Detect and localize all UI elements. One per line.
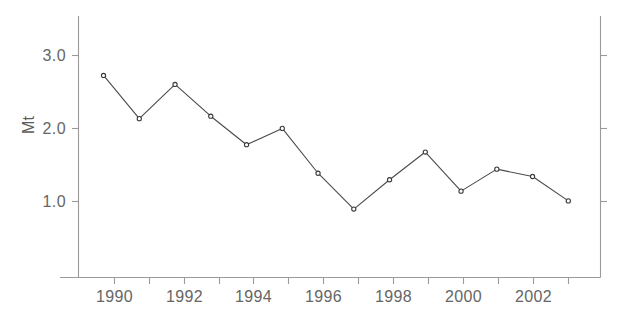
chart-canvas: 3.0 2.0 1.0 Mt 1990 1992 1994 1996 1998 … <box>0 0 621 321</box>
y-tick-marks-right <box>601 56 608 202</box>
data-point-1996 <box>316 171 320 175</box>
y-tick-label-2: 2.0 <box>43 120 66 137</box>
x-tick-label-2000: 2000 <box>445 288 482 305</box>
x-tick-label-2002: 2002 <box>515 288 552 305</box>
data-point-1994 <box>244 143 248 147</box>
x-tick-label-1990: 1990 <box>96 288 133 305</box>
line-chart: 3.0 2.0 1.0 Mt 1990 1992 1994 1996 1998 … <box>0 0 621 321</box>
data-point-2002 <box>530 174 534 178</box>
data-point-1993 <box>209 114 213 118</box>
data-point-2000 <box>459 189 463 193</box>
data-point-1992 <box>173 82 177 86</box>
x-tick-label-1998: 1998 <box>375 288 412 305</box>
y-tick-label-1: 1.0 <box>43 193 66 210</box>
data-point-2003 <box>566 199 570 203</box>
y-tick-label-3: 3.0 <box>43 47 66 64</box>
data-point-1998 <box>387 178 391 182</box>
data-point-1997 <box>352 207 356 211</box>
x-tick-label-1994: 1994 <box>235 288 272 305</box>
x-tick-label-1996: 1996 <box>305 288 342 305</box>
y-axis-title: Mt <box>20 116 37 134</box>
data-line-series-mt <box>104 75 569 209</box>
data-point-2001 <box>495 167 499 171</box>
y-tick-marks-left <box>72 56 79 202</box>
x-tick-label-1992: 1992 <box>166 288 203 305</box>
data-point-1990 <box>101 73 105 77</box>
data-point-1991 <box>137 117 141 121</box>
x-tick-marks <box>115 278 569 285</box>
data-point-1999 <box>423 150 427 154</box>
data-point-1995 <box>280 126 284 130</box>
